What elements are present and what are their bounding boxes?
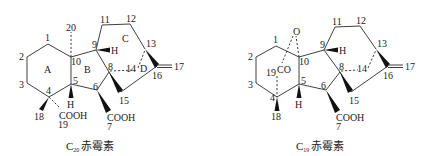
wedge-9-h — [324, 48, 338, 53]
caption-c20: C20赤霉素 — [66, 140, 114, 153]
atom-label-2: 2 — [19, 51, 24, 62]
wedge-4-18 — [39, 97, 49, 111]
wedge-4-18 — [275, 97, 280, 111]
dash-14-13 — [368, 50, 376, 68]
ring-label-c: C — [122, 33, 129, 44]
atom-label-3: 3 — [19, 79, 24, 90]
atom-label-11: 11 — [100, 14, 110, 25]
structure-c20: 1 2 3 4 5 6 7 8 9 10 11 12 13 14 15 16 1… — [19, 13, 184, 153]
carbonyl-co: CO — [277, 64, 291, 75]
atom-label-8: 8 — [108, 61, 113, 72]
atom-label-20: 20 — [66, 22, 76, 33]
dash-10-o — [296, 36, 299, 57]
structure-c19: 1 2 3 4 5 6 7 8 9 10 11 12 13 14 15 16 1… — [248, 15, 415, 153]
atom-label-2: 2 — [248, 51, 253, 62]
hydrogen-9: H — [111, 45, 118, 56]
wedge-5-h — [297, 84, 302, 98]
atom-label-18: 18 — [271, 111, 281, 122]
atom-label-9: 9 — [92, 39, 97, 50]
atom-label-13: 13 — [146, 38, 156, 49]
atom-label-10: 10 — [71, 56, 81, 67]
ring-c-bonds — [96, 24, 145, 50]
gibberellin-diagrams: 1 2 3 4 5 6 7 8 9 10 11 12 13 14 15 16 1… — [0, 0, 426, 156]
oxygen-bridge: O — [293, 26, 300, 37]
atom-label-6: 6 — [321, 80, 326, 91]
atom-label-16: 16 — [383, 70, 393, 81]
wedge-6-7 — [97, 90, 111, 113]
atom-label-5: 5 — [73, 75, 78, 86]
atom-label-14: 14 — [357, 63, 367, 74]
cooh-7: COOH — [336, 112, 364, 123]
wedge-13-16 — [376, 49, 390, 68]
atom-label-5: 5 — [301, 75, 306, 86]
hydrogen-5: H — [67, 99, 74, 110]
dash-4-19 — [49, 97, 60, 108]
atom-label-6: 6 — [93, 81, 98, 92]
atom-label-10: 10 — [299, 56, 309, 67]
atom-label-4: 4 — [46, 85, 51, 96]
atom-label-4: 4 — [270, 92, 275, 103]
atom-label-11: 11 — [332, 16, 342, 27]
atom-label-12: 12 — [356, 15, 366, 26]
wedge-8-15 — [340, 72, 353, 93]
atom-label-14: 14 — [126, 63, 136, 74]
atom-label-3: 3 — [248, 79, 253, 90]
ring-label-b: B — [84, 64, 91, 75]
hydrogen-9: H — [339, 45, 346, 56]
atom-label-15: 15 — [119, 95, 129, 106]
atom-label-17: 17 — [405, 61, 415, 72]
atom-label-18: 18 — [34, 111, 44, 122]
wedge-5-h — [69, 84, 74, 98]
cooh-19: COOH — [59, 110, 87, 121]
atom-label-16: 16 — [152, 70, 162, 81]
cooh-7: COOH — [107, 112, 135, 123]
ring-label-d: D — [140, 63, 147, 74]
atom-label-8: 8 — [339, 61, 344, 72]
hydrogen-5: H — [295, 99, 302, 110]
ring-label-a: A — [44, 64, 52, 75]
atom-label-15: 15 — [349, 95, 359, 106]
wedge-6-7 — [326, 90, 340, 113]
wedge-9-h — [96, 48, 110, 53]
caption-c19: C19赤霉素 — [296, 140, 344, 153]
atom-label-12: 12 — [126, 13, 136, 24]
atom-label-9: 9 — [320, 39, 325, 50]
atom-label-17: 17 — [174, 61, 184, 72]
atom-label-19: 19 — [266, 67, 276, 78]
atom-label-13: 13 — [377, 38, 387, 49]
atom-label-1: 1 — [273, 34, 278, 45]
atom-label-1: 1 — [45, 32, 50, 43]
wedge-8-15 — [109, 72, 123, 93]
ring-c-bonds — [324, 26, 376, 50]
